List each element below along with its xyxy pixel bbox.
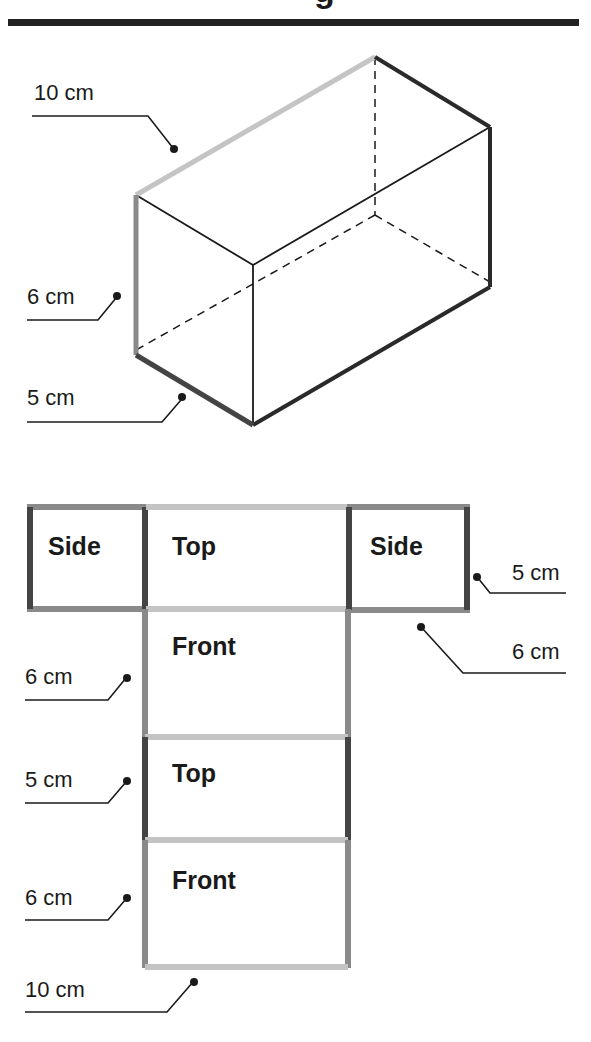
leader-dot	[113, 292, 121, 300]
leader-dot	[123, 894, 131, 902]
net-face-front-2: Front	[145, 840, 348, 968]
label-length: 10 cm	[34, 80, 94, 105]
title-fragment: g	[314, 0, 335, 9]
label-height: 6 cm	[27, 284, 75, 309]
label-front-height: 6 cm	[25, 664, 73, 689]
face-label-side-right: Side	[370, 532, 423, 560]
edge-bottom-right	[253, 287, 490, 425]
callout-length: 10 cm	[25, 977, 198, 1012]
callout-front-height: 6 cm	[25, 664, 131, 700]
net-drawing: Side Top Side Front Top	[25, 507, 566, 1012]
net-face-top-2: Top	[145, 737, 348, 840]
label-width: 5 cm	[27, 385, 75, 410]
edge-length	[136, 57, 375, 195]
net-face-top: Top	[146, 507, 347, 609]
hidden-edge-left-bottom	[136, 215, 375, 350]
label-side-width: 5 cm	[512, 560, 560, 585]
net-face-side-left: Side	[27, 507, 146, 609]
leader-dot	[417, 623, 425, 631]
edge-top-front	[136, 195, 253, 265]
face-label-side-left: Side	[48, 532, 101, 560]
net-face-side-right: Side	[347, 507, 470, 610]
callout-length: 10 cm	[32, 80, 178, 153]
callout-back-height: 6 cm	[25, 885, 131, 920]
label-back-height: 6 cm	[25, 885, 73, 910]
label-top-width: 5 cm	[25, 767, 73, 792]
leader-dot	[190, 978, 198, 986]
face-label-front-2: Front	[172, 866, 237, 894]
callout-height: 6 cm	[27, 284, 121, 320]
prism-net-diagram: g 10 cm 6 cm 5 cm	[0, 0, 591, 1042]
leader-dot	[473, 573, 481, 581]
label-net-length: 10 cm	[25, 977, 85, 1002]
leader-line	[32, 116, 173, 148]
leader-dot	[123, 674, 131, 682]
callout-width: 5 cm	[27, 385, 186, 422]
hidden-edge-back-bottom	[375, 215, 490, 282]
edge-top-right	[253, 127, 490, 265]
header: g	[8, 0, 579, 26]
callout-side-width: 5 cm	[473, 560, 566, 593]
header-rule	[8, 19, 579, 26]
callout-top-width: 5 cm	[25, 767, 131, 803]
leader-dot	[123, 777, 131, 785]
edge-width	[136, 355, 253, 425]
net-face-front: Front	[145, 609, 348, 737]
leader-dot	[170, 145, 178, 153]
edge-back-top	[375, 57, 490, 127]
callout-side-height: 6 cm	[512, 639, 560, 664]
face-label-top: Top	[172, 532, 216, 560]
label-side-height: 6 cm	[512, 639, 560, 664]
face-label-front: Front	[172, 632, 237, 660]
prism-drawing: 10 cm 6 cm 5 cm	[27, 57, 490, 425]
leader-dot	[178, 393, 186, 401]
face-label-top-2: Top	[172, 759, 216, 787]
